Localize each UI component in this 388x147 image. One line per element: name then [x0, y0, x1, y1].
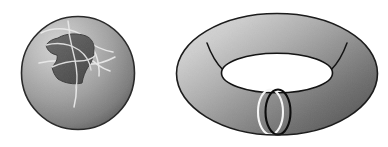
surfaces-illustration	[0, 0, 388, 147]
figure-canvas: Sphere with coordinate patch and torus w…	[0, 0, 388, 147]
torus	[177, 14, 378, 136]
sphere	[22, 17, 135, 130]
